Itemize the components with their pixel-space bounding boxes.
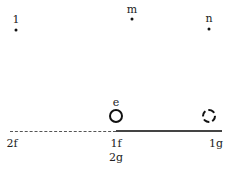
point-dot-1 <box>15 29 18 32</box>
point-label-n: n <box>205 13 212 24</box>
tick-label-2f: 2f <box>6 138 17 149</box>
sub-label-2g: 2g <box>109 152 123 163</box>
dashed-axis-segment <box>10 131 116 132</box>
object-label-e: e <box>113 97 120 108</box>
point-dot-n <box>208 28 211 31</box>
dashed-circle-icon <box>202 109 216 123</box>
tick-label-1f: 1f <box>110 138 121 149</box>
point-label-m: m <box>127 4 137 15</box>
point-label-1: 1 <box>13 14 20 25</box>
point-dot-m <box>131 18 134 21</box>
tick-label-1g: 1g <box>209 138 223 149</box>
solid-axis-segment <box>116 130 222 132</box>
solid-circle-icon <box>109 109 123 123</box>
